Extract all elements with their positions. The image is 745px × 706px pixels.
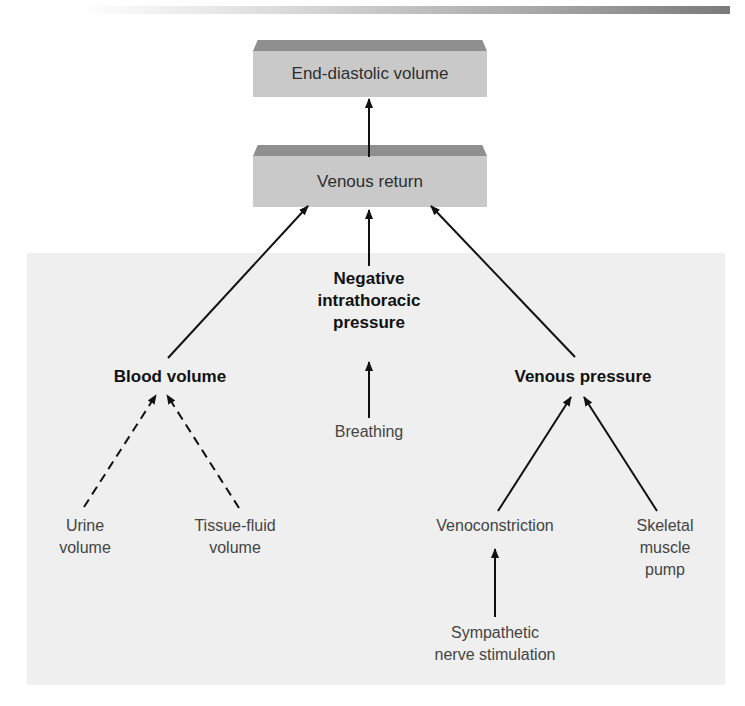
negative-intrathoracic-pressure-node: Negative intrathoracic pressure bbox=[290, 268, 448, 334]
node-line: Sympathetic bbox=[405, 622, 585, 644]
venoconstriction-node: Venoconstriction bbox=[410, 515, 580, 537]
sympathetic-nerve-stimulation-node: Sympathetic nerve stimulation bbox=[405, 622, 585, 666]
blood-volume-label: Blood volume bbox=[114, 367, 226, 386]
node-line: Urine bbox=[40, 515, 130, 537]
tissue-fluid-volume-node: Tissue-fluid volume bbox=[165, 515, 305, 559]
arrow-venous-pressure-to-venous-return bbox=[431, 206, 575, 357]
arrow-venoconstriction-to-venous-pressure bbox=[498, 397, 571, 511]
breathing-node: Breathing bbox=[309, 421, 429, 443]
urine-volume-node: Urine volume bbox=[40, 515, 130, 559]
arrow-tissue-fluid-to-blood-volume bbox=[167, 395, 239, 508]
node-line: Negative bbox=[290, 268, 448, 290]
node-line: Skeletal bbox=[615, 515, 715, 537]
skeletal-muscle-pump-node: Skeletal muscle pump bbox=[615, 515, 715, 581]
arrow-skeletal-pump-to-venous-pressure bbox=[584, 397, 657, 511]
node-line: muscle bbox=[615, 537, 715, 559]
breathing-label: Breathing bbox=[335, 423, 404, 440]
blood-volume-node: Blood volume bbox=[80, 366, 260, 388]
node-line: volume bbox=[40, 537, 130, 559]
node-line: volume bbox=[165, 537, 305, 559]
node-line: nerve stimulation bbox=[405, 644, 585, 666]
venous-pressure-node: Venous pressure bbox=[488, 366, 678, 388]
venoconstriction-label: Venoconstriction bbox=[436, 517, 553, 534]
arrow-urine-to-blood-volume bbox=[84, 395, 156, 507]
node-line: pump bbox=[615, 559, 715, 581]
venous-pressure-label: Venous pressure bbox=[514, 367, 651, 386]
node-line: Tissue-fluid bbox=[165, 515, 305, 537]
arrow-blood-volume-to-venous-return bbox=[168, 206, 308, 358]
arrow-layer bbox=[0, 0, 745, 706]
node-line: intrathoracic bbox=[290, 290, 448, 312]
node-line: pressure bbox=[290, 312, 448, 334]
